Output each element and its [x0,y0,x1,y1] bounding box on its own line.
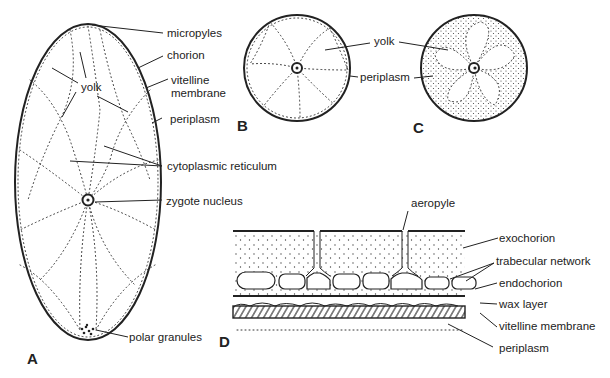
label-exochorion: exochorion [499,232,555,244]
panel-label-c: C [413,119,424,136]
label-vitelline-membrane: vitelline membrane [499,320,596,332]
label-chorion: chorion [167,49,205,61]
panel-label-a: A [27,350,38,367]
panel-d-shell-section: aeropyle exochorion trabecular network e… [219,197,596,354]
label-periplasm-bc: periplasm [360,71,410,83]
label-micropyles: micropyles [167,27,222,39]
label-periplasm-d: periplasm [499,342,549,354]
egg-diagram: micropyles chorion vitelline membrane pe… [0,0,610,378]
label-vitelline-2: membrane [171,87,226,99]
label-vitelline-1: vitelline [171,74,209,86]
label-endochorion: endochorion [499,277,562,289]
label-zygote-nucleus: zygote nucleus [166,195,243,207]
panel-b-cross-section: B [237,15,370,134]
panel-c-cross-section: C [399,15,527,136]
label-trabecular-network: trabecular network [496,255,591,267]
label-wax-layer: wax layer [498,298,548,310]
label-polar-granules: polar granules [129,331,202,343]
label-yolk: yolk [81,81,102,93]
panel-label-b: B [237,117,248,134]
label-periplasm: periplasm [170,113,220,125]
label-aeropyle: aeropyle [411,197,455,209]
label-cytoplasmic-reticulum: cytoplasmic reticulum [167,160,277,172]
label-yolk-bc: yolk [374,35,395,47]
panel-label-d: D [219,333,230,350]
